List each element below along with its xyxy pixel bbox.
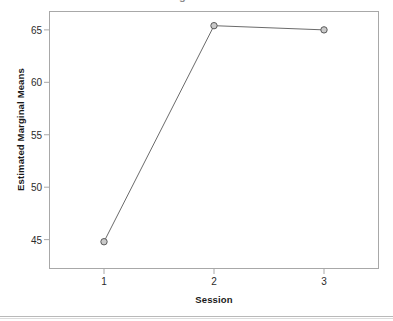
series-markers — [101, 22, 327, 244]
x-tick-label: 3 — [309, 276, 339, 287]
data-point-marker — [211, 22, 217, 28]
y-axis-ticks — [44, 30, 49, 240]
x-axis-title: Session — [49, 294, 379, 305]
footer-divider-secondary — [0, 318, 393, 319]
x-axis-ticks — [104, 269, 324, 274]
chart-plot-svg — [0, 0, 393, 321]
data-point-marker — [101, 239, 107, 245]
x-tick-label: 1 — [89, 276, 119, 287]
data-point-marker — [321, 27, 327, 33]
series-line — [104, 26, 324, 242]
x-tick-label: 2 — [199, 276, 229, 287]
chart-figure: Estimated Marginal Means of Score Estima… — [0, 0, 393, 321]
footer-divider — [0, 316, 393, 317]
